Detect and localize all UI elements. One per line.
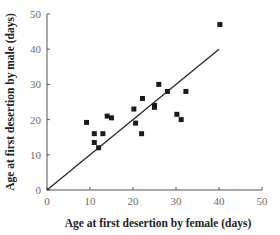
data-point (131, 107, 136, 112)
data-point (92, 140, 97, 145)
y-tick-label: 30 (30, 78, 42, 90)
data-point (96, 145, 101, 150)
data-point (84, 120, 89, 125)
x-tick-label: 50 (257, 195, 269, 207)
data-points (84, 22, 222, 150)
scatter-chart: 0102030405001020304050 Age at first dese… (0, 0, 280, 235)
data-point (174, 112, 179, 117)
data-point (100, 131, 105, 136)
data-point (183, 89, 188, 94)
data-point (217, 22, 222, 27)
data-point (140, 96, 145, 101)
data-point (133, 121, 138, 126)
identity-line (47, 49, 219, 190)
x-tick-label: 30 (171, 195, 183, 207)
data-point (165, 89, 170, 94)
data-point (139, 131, 144, 136)
data-point (105, 114, 110, 119)
x-tick-label: 40 (214, 195, 226, 207)
reference-line (47, 49, 219, 190)
x-tick-label: 20 (128, 195, 140, 207)
x-tick-label: 10 (85, 195, 97, 207)
data-point (92, 131, 97, 136)
x-tick-label: 0 (44, 195, 50, 207)
y-axis-title: Age at first desertion by male (days) (4, 13, 17, 191)
y-tick-label: 50 (30, 8, 42, 20)
x-axis-title: Age at first desertion by female (days) (65, 217, 252, 230)
data-point (109, 115, 114, 120)
axes: 0102030405001020304050 (30, 8, 268, 207)
data-point (152, 105, 157, 110)
y-tick-label: 40 (30, 43, 42, 55)
data-point (156, 82, 161, 87)
y-tick-label: 0 (36, 184, 42, 196)
y-tick-label: 20 (30, 114, 42, 126)
y-tick-label: 10 (30, 149, 42, 161)
data-point (179, 117, 184, 122)
